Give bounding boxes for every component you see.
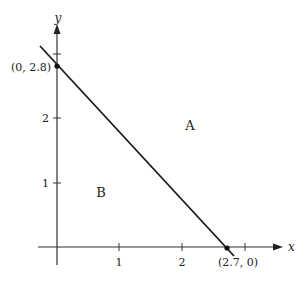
region-a-label: A	[184, 118, 195, 133]
y-intercept-point	[54, 63, 59, 68]
x-intercept-label: (2.7, 0)	[218, 256, 258, 269]
x-axis-label: x	[288, 240, 295, 254]
y-axis-label: y	[54, 11, 62, 25]
x-tick-label-1: 1	[116, 256, 123, 269]
x-tick-label-2: 2	[179, 256, 186, 269]
y-tick-label-1: 1	[42, 177, 49, 190]
x-intercept-point	[224, 245, 229, 250]
y-axis-arrow-icon	[54, 24, 61, 34]
region-b-label: B	[96, 185, 106, 200]
x-axis-arrow-icon	[273, 244, 283, 251]
y-intercept-label: (0, 2.8)	[11, 61, 51, 74]
boundary-line	[40, 46, 234, 256]
y-tick-label-2: 2	[42, 112, 49, 125]
chart: 1 2 1 2 x y (0, 2.8) (2.7, 0) A B	[0, 0, 305, 287]
